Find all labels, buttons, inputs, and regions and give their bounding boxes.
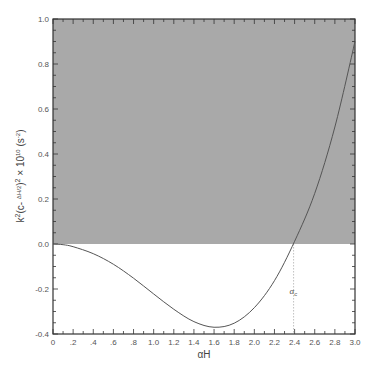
chart: -0.4-0.20.00.20.40.60.81.0 0.2.4.6.81.01… [0,0,375,375]
y-tick-label: 0.0 [38,240,50,249]
y-tick-label: 0.4 [38,150,50,159]
x-tick-label: 2.0 [249,338,261,347]
x-axis-title: αH [197,349,210,360]
y-tick-label: 0.6 [38,105,50,114]
x-tick-label: 1.2 [168,338,180,347]
shaded-area [53,19,355,244]
x-tick-label: 2.4 [289,338,301,347]
x-tick-label: 2.2 [269,338,281,347]
y-tick-label: -0.2 [35,285,49,294]
y-tick-label: 0.2 [38,195,50,204]
x-tick-label: 1.6 [209,338,221,347]
x-tick-label: 3.0 [349,338,361,347]
x-tick-label: .8 [130,338,137,347]
y-axis-title-text: k2(c- ΔH/2)2 × 1010 (s-2) [14,130,26,223]
y-tick-label: -0.4 [35,330,49,339]
x-tick-label: 1.8 [229,338,241,347]
shaded-region [53,19,355,244]
x-tick-label: 0 [51,338,56,347]
alpha-c-label: αc [290,287,298,297]
x-tick-label: 1.4 [188,338,200,347]
x-tick-label: .4 [90,338,97,347]
x-tick-label: 1.0 [148,338,160,347]
y-tick-label: 1.0 [38,15,50,24]
x-tick-label: .6 [110,338,117,347]
x-tick-label: .2 [70,338,77,347]
alpha-c-annotation: αc [290,244,298,334]
x-tick-label: 2.8 [329,338,341,347]
y-axis-title: k2(c- ΔH/2)2 × 1010 (s-2) [14,130,26,223]
y-tick-label: 0.8 [38,60,50,69]
x-tick-label: 2.6 [309,338,321,347]
